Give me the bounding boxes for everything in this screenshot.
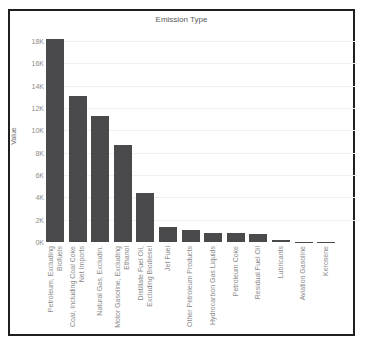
gridline: [46, 86, 358, 87]
bar-hydrocarbon-gas-liquids[interactable]: [204, 233, 222, 242]
bar-petroleum-coke[interactable]: [227, 233, 245, 242]
gridline: [46, 108, 358, 109]
plot-area: 0K2K4K6K8K10K12K14K16K18KPetroleum, Excl…: [46, 30, 358, 242]
bar-petroleum-excluding-biofuels[interactable]: [46, 39, 64, 242]
bar-natural-gas-excludin[interactable]: [91, 116, 109, 242]
bar-distillate-fuel-oil-excluding-biodiesel[interactable]: [136, 193, 154, 242]
bar-residual-fuel-oil[interactable]: [249, 234, 267, 242]
gridline: [46, 63, 358, 64]
y-tick-label: 0K: [14, 239, 44, 246]
chart-frame: Emission Type 0K2K4K6K8K10K12K14K16K18KP…: [8, 9, 355, 336]
x-category-label: Distillate Fuel Oil,Excluding Biodiesel: [137, 246, 154, 332]
bar-jet-fuel[interactable]: [159, 227, 177, 242]
x-category-label: Aviation Gasoline: [299, 246, 308, 332]
y-tick-label: 18K: [14, 38, 44, 45]
bar-motor-gasoline-excluding-ethanol[interactable]: [114, 145, 132, 242]
bar-lubricants[interactable]: [272, 240, 290, 242]
x-category-label: Petroleum Coke: [232, 246, 241, 332]
bar-other-petroleum-products[interactable]: [182, 230, 200, 242]
x-category-label: Lubricants: [277, 246, 286, 332]
y-tick-label: 12K: [14, 105, 44, 112]
y-tick-label: 14K: [14, 82, 44, 89]
y-axis-label: Value: [10, 116, 20, 156]
x-category-label: Natural Gas, Excludin.: [96, 246, 105, 332]
y-tick-label: 4K: [14, 194, 44, 201]
x-category-label: Hydrocarbon Gas Liquids: [209, 246, 218, 332]
x-category-label: Coal, Including Coal CokeNet Imports: [69, 246, 86, 332]
y-tick-label: 2K: [14, 216, 44, 223]
bar-coal-including-coal-coke-net-imports[interactable]: [69, 96, 87, 242]
x-category-label: Petroleum, ExcludingBiofuels: [47, 246, 64, 332]
x-category-label: Residual Fuel Oil: [254, 246, 263, 332]
x-category-label: Kerosene: [322, 246, 331, 332]
x-category-label: Jet Fuel: [164, 246, 173, 332]
chart-window: Emission Type 0K2K4K6K8K10K12K14K16K18KP…: [0, 0, 365, 346]
x-category-label: Other Petroleum Products: [186, 246, 195, 332]
y-tick-label: 16K: [14, 60, 44, 67]
y-tick-label: 6K: [14, 172, 44, 179]
x-category-label: Motor Gasoline, ExcludingEthanol: [114, 246, 131, 332]
chart-title: Emission Type: [10, 15, 353, 24]
gridline: [46, 41, 358, 42]
